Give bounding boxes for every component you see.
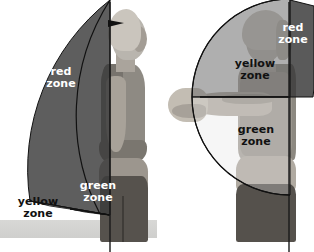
label-line-2: zone <box>222 70 288 82</box>
direction-arrow-icon <box>108 20 124 27</box>
label-line-2: zone <box>228 136 284 148</box>
label-side-yellow-zone: yellow zone <box>4 196 72 220</box>
label-line-2: zone <box>74 192 122 204</box>
label-side-red-zone: red zone <box>34 66 88 90</box>
label-front-red-zone: red zone <box>272 22 314 46</box>
label-line-2: zone <box>272 34 314 46</box>
zone-wedge-yellow <box>192 0 290 97</box>
reach-zones-figure: red zone yellow zone green zone yellow z… <box>0 0 314 252</box>
label-line-2: zone <box>4 208 72 220</box>
zone-wedge-red <box>290 0 314 97</box>
label-side-green-zone: green zone <box>74 180 122 204</box>
label-front-green-zone: green zone <box>228 124 284 148</box>
label-line-2: zone <box>34 78 88 90</box>
label-front-yellow-zone: yellow zone <box>222 58 288 82</box>
